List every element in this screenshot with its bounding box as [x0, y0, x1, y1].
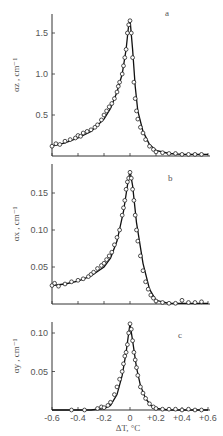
data-point	[144, 280, 148, 284]
data-point	[154, 299, 158, 303]
x-tick-label: +0.6	[199, 413, 217, 423]
data-point	[167, 301, 171, 305]
data-point	[148, 402, 152, 406]
data-point	[107, 254, 111, 258]
data-point	[96, 267, 100, 271]
data-point	[122, 206, 126, 210]
data-point	[70, 280, 74, 284]
data-point	[132, 80, 136, 84]
data-point	[113, 97, 117, 101]
data-point	[79, 134, 83, 138]
data-point	[123, 199, 127, 203]
data-point	[115, 90, 119, 94]
data-point	[54, 142, 58, 146]
data-point	[144, 397, 148, 401]
data-point	[124, 48, 128, 52]
data-point	[139, 125, 143, 129]
data-point	[187, 301, 191, 305]
panel-c: 0.050.10αy , cm⁻¹c	[11, 322, 210, 412]
y-tick-label: 0.05	[30, 262, 48, 272]
data-point	[133, 213, 137, 217]
data-point	[167, 152, 171, 156]
x-axis-title: ΔT, °C	[116, 423, 141, 433]
data-point	[193, 301, 197, 305]
data-point	[123, 354, 127, 358]
data-point	[122, 64, 126, 68]
data-point	[174, 301, 178, 305]
panel-b: 0.050.100.15αx , cm⁻¹b	[11, 164, 210, 305]
data-point	[124, 187, 128, 191]
data-point	[102, 406, 106, 410]
data-point	[139, 385, 143, 389]
data-point	[85, 130, 89, 134]
data-point	[109, 400, 113, 404]
y-tick-label: 0.15	[30, 188, 48, 198]
data-point	[161, 407, 165, 411]
y-tick-label: 0.5	[35, 110, 48, 120]
data-point	[102, 113, 106, 117]
data-point	[180, 153, 184, 157]
data-point	[174, 407, 178, 411]
data-point	[96, 407, 100, 411]
data-point	[118, 228, 122, 232]
data-point	[110, 250, 114, 254]
data-point	[141, 131, 145, 135]
data-point	[133, 358, 137, 362]
data-point	[132, 350, 136, 354]
data-point	[126, 31, 130, 35]
data-point	[120, 370, 124, 374]
data-point	[58, 143, 62, 147]
data-point	[123, 56, 127, 60]
data-point	[100, 118, 104, 122]
data-point	[200, 153, 204, 157]
data-point	[120, 72, 124, 76]
y-tick-label: 0.05	[30, 367, 48, 377]
data-point	[102, 261, 106, 265]
data-point	[127, 331, 131, 335]
data-point	[50, 144, 54, 148]
y-axis-title: αy , cm⁻¹	[11, 338, 21, 373]
data-point	[63, 282, 67, 286]
data-point	[174, 152, 178, 156]
x-tick-label: 0	[127, 413, 132, 423]
data-point	[139, 254, 143, 258]
data-point	[129, 176, 133, 180]
data-point	[141, 269, 145, 273]
data-point	[193, 153, 197, 157]
data-point	[154, 150, 158, 154]
data-point	[141, 391, 145, 395]
data-point	[148, 144, 152, 148]
data-point	[193, 408, 197, 412]
data-point	[68, 138, 72, 142]
data-point	[128, 19, 132, 23]
data-point	[129, 327, 133, 331]
data-point	[96, 123, 100, 127]
data-point	[167, 407, 171, 411]
panel-letter: c	[178, 330, 182, 340]
data-point	[132, 199, 136, 203]
x-tick-label: -0.6	[44, 413, 60, 423]
data-point	[126, 180, 130, 184]
data-point	[161, 301, 165, 305]
data-point	[116, 84, 120, 88]
data-point	[136, 117, 140, 121]
y-tick-label: 1.5	[35, 28, 48, 38]
data-point	[161, 151, 165, 155]
data-point	[133, 97, 137, 101]
data-point	[136, 374, 140, 378]
data-point	[118, 80, 122, 84]
data-point	[81, 277, 85, 281]
data-point	[92, 270, 96, 274]
data-point	[128, 170, 132, 174]
data-point	[81, 131, 85, 135]
x-tick-label: +0.2	[147, 413, 165, 423]
data-point	[110, 102, 114, 106]
x-tick-label: -0.2	[96, 413, 112, 423]
data-point	[53, 281, 57, 285]
data-point	[76, 278, 80, 282]
data-point	[200, 300, 204, 304]
data-point	[70, 408, 74, 412]
y-tick-label: 0.10	[30, 225, 48, 235]
panel-letter: b	[168, 173, 173, 183]
y-tick-label: 1.0	[35, 69, 48, 79]
